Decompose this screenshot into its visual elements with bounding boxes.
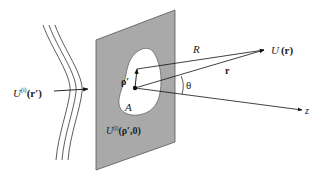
label-aperture-field: U(i)(ρ′,0): [106, 125, 141, 137]
incident-wavefronts: [43, 25, 82, 160]
label-rho-prime: ρ′: [121, 76, 129, 87]
angle-theta-arc: [181, 76, 183, 94]
label-aperture-A: A: [124, 101, 132, 113]
label-observed-field: U(r): [271, 44, 293, 57]
label-z-axis: z: [304, 105, 309, 116]
incident-arrow: [54, 89, 88, 91]
diffraction-diagram: U(i)(r′) ρ′ A U(i)(ρ′,0) R r U(r) θ z: [0, 0, 322, 180]
label-incident-field: U(i)(r′): [13, 87, 42, 100]
label-r: r: [225, 65, 230, 76]
label-theta: θ: [186, 79, 191, 91]
label-R: R: [192, 43, 200, 55]
